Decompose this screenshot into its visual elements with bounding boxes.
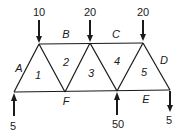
member-2 [39, 44, 65, 92]
panel-label-3: 3 [88, 67, 95, 79]
space-label-d: D [160, 54, 168, 66]
panel-label-4: 4 [114, 55, 120, 67]
arrowhead-up-icon [114, 92, 120, 100]
truss-diagram: 10 20 20 5 50 5 A B C D E F 1 2 3 4 5 [0, 0, 181, 137]
arrowhead-down-icon [140, 34, 146, 41]
reaction-label-middle: 50 [112, 118, 124, 130]
bottom-chord [14, 90, 170, 92]
space-label-c: C [112, 28, 120, 40]
reaction-label-left: 5 [10, 120, 16, 132]
space-label-b: B [62, 28, 69, 40]
space-label-e: E [142, 93, 150, 105]
reaction-label-right: 5 [166, 114, 172, 126]
load-label-2: 20 [84, 6, 96, 18]
panel-label-1: 1 [35, 69, 41, 81]
member-5 [117, 43, 143, 91]
space-label-f: F [63, 95, 71, 107]
load-label-1: 10 [33, 6, 45, 18]
arrowhead-down-icon [167, 105, 173, 112]
panel-label-2: 2 [62, 56, 69, 68]
arrowhead-down-icon [36, 36, 42, 43]
space-label-a: A [14, 62, 22, 74]
load-label-3: 20 [137, 6, 149, 18]
load-arrowheads [36, 34, 146, 43]
panel-label-5: 5 [141, 66, 148, 78]
arrowhead-down-icon [87, 35, 93, 42]
arrowhead-up-icon [11, 93, 17, 101]
